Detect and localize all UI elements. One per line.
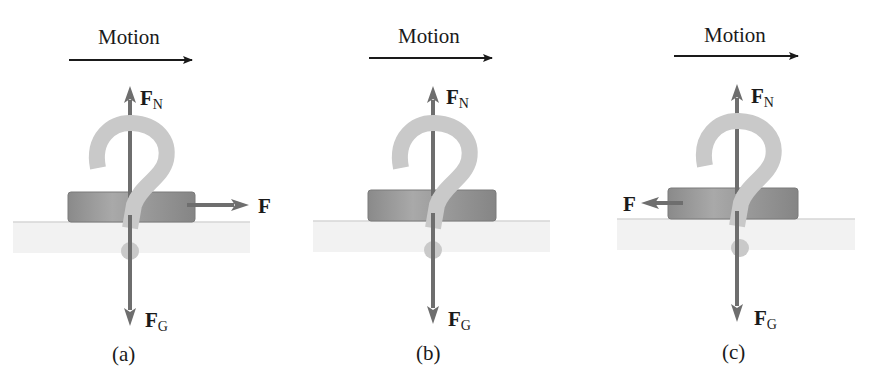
gravity-force-subscript: G xyxy=(461,318,471,333)
applied-force-label: F xyxy=(623,194,636,215)
normal-force-subscript: N xyxy=(153,97,163,112)
normal-force-subscript: N xyxy=(459,96,469,111)
normal-force-symbol: F xyxy=(140,86,153,110)
panel-caption: (c) xyxy=(722,342,745,363)
motion-label: Motion xyxy=(98,27,160,48)
panel-caption: (b) xyxy=(416,343,441,364)
normal-force-label: FN xyxy=(446,87,469,111)
applied-force-label: F xyxy=(258,196,271,217)
gravity-force-symbol: F xyxy=(145,308,158,332)
motion-label: Motion xyxy=(398,26,460,47)
panel-a xyxy=(13,60,250,326)
panel-caption: (a) xyxy=(112,344,135,365)
panel-b xyxy=(313,58,550,324)
gravity-force-label: FG xyxy=(448,309,471,333)
gravity-force-arrowhead-icon xyxy=(731,304,743,322)
gravity-force-label: FG xyxy=(145,310,168,334)
gravity-force-symbol: F xyxy=(448,307,461,331)
normal-force-subscript: N xyxy=(764,95,774,110)
motion-label: Motion xyxy=(704,25,766,46)
normal-force-label: FN xyxy=(751,86,774,110)
gravity-force-subscript: G xyxy=(158,319,168,334)
normal-force-label: FN xyxy=(140,88,163,112)
gravity-force-label: FG xyxy=(754,308,777,332)
normal-force-symbol: F xyxy=(751,84,764,108)
free-body-diagrams-canvas xyxy=(0,0,873,385)
gravity-force-arrowhead-icon xyxy=(124,308,136,326)
gravity-force-subscript: G xyxy=(767,317,777,332)
gravity-force-arrowhead-icon xyxy=(427,306,439,324)
gravity-force-symbol: F xyxy=(754,306,767,330)
normal-force-symbol: F xyxy=(446,85,459,109)
panel-c xyxy=(617,56,855,322)
